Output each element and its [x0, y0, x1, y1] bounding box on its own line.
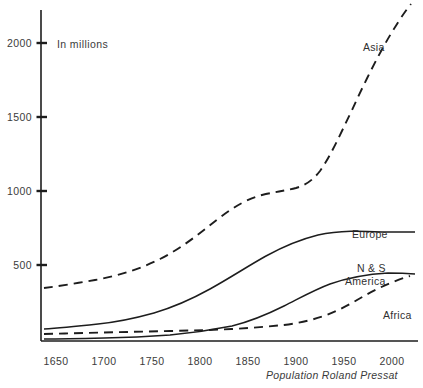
source-credit: Population Roland Pressat	[266, 369, 398, 381]
y-tick-label-2000: 2000	[0, 37, 32, 49]
x-tick-label-1650: 1650	[32, 355, 80, 367]
series-label-asia: Asia	[363, 41, 385, 53]
y-tick-label-500: 500	[0, 259, 32, 271]
y-tick-label-1000: 1000	[0, 185, 32, 197]
x-tick-label-1750: 1750	[128, 355, 176, 367]
series-label-n-s-america-line1: N & S	[357, 262, 386, 274]
y-tick-label-1500: 1500	[0, 111, 32, 123]
x-tick-label-1800: 1800	[176, 355, 224, 367]
population-line-chart: 2000 1500 1000 500 In millions 1650 1700…	[0, 0, 423, 388]
x-tick-label-1850: 1850	[224, 355, 272, 367]
x-tick-label-1900: 1900	[272, 355, 320, 367]
x-tick-label-1700: 1700	[80, 355, 128, 367]
x-tick-label-2000: 2000	[368, 355, 416, 367]
series-label-n-s-america-line2: America	[345, 275, 386, 287]
chart-plot-area	[0, 0, 423, 388]
series-label-africa: Africa	[383, 309, 412, 321]
x-tick-label-1950: 1950	[320, 355, 368, 367]
series-label-europe: Europe	[352, 228, 388, 240]
axis-unit-label: In millions	[57, 38, 108, 50]
